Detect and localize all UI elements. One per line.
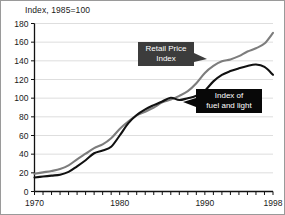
chart-figure: Index, 1985=100 180160140120100806040200… [0, 0, 285, 215]
y-tick-label: 0 [24, 187, 29, 197]
annotation-index-of-fuel-and-light: Index of fuel and light [196, 89, 262, 113]
annotation-rpi-line-2: Index [142, 54, 190, 64]
y-tick-label: 80 [19, 112, 29, 122]
annotation-fuel-line-2: fuel and light [200, 101, 258, 111]
series-line-index-of-fuel-and-light [35, 65, 274, 178]
y-tick-label: 120 [14, 75, 28, 85]
annotation-retail-price-index: Retail Price Index [138, 42, 194, 66]
y-tick-labels-group: 180160140120100806040200 [14, 19, 28, 197]
y-tick-label: 180 [14, 19, 28, 29]
x-tick-label: 1980 [110, 198, 129, 208]
annotation-rpi-line-1: Retail Price [142, 44, 190, 54]
y-tick-label: 60 [19, 131, 29, 141]
x-tick-labels-group: 1970198019901998 [25, 198, 283, 208]
y-tick-label: 160 [14, 37, 28, 47]
annotation-fuel-line-1: Index of [200, 91, 258, 101]
x-tick-label: 1970 [25, 198, 44, 208]
y-tick-label: 140 [14, 56, 28, 66]
x-tick-label: 1998 [264, 198, 283, 208]
y-tick-label: 100 [14, 93, 28, 103]
x-tick-label: 1990 [195, 198, 214, 208]
y-tick-label: 20 [19, 168, 29, 178]
y-tick-label: 40 [19, 149, 29, 159]
